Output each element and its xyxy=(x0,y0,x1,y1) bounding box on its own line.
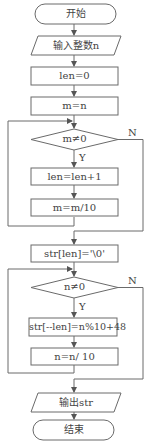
div-n-label: n=n/ 10 xyxy=(31,352,118,362)
init-m-label: m=n xyxy=(31,101,118,111)
cond2-no-label: N xyxy=(128,276,137,286)
terminate-str-label: str[len]='\0' xyxy=(31,249,118,259)
cond2-label: n≠0 xyxy=(31,282,118,292)
inc-len-label: len=len+1 xyxy=(31,172,118,182)
output-label: 输出str xyxy=(31,398,121,408)
cond2-yes-label: Y xyxy=(79,302,86,312)
store-digit-label: str[--len]=n%10+48 xyxy=(29,322,117,332)
start-label: 开始 xyxy=(35,9,116,19)
end-label: 结束 xyxy=(33,425,114,435)
cond1-yes-label: Y xyxy=(79,153,86,163)
flowchart-canvas xyxy=(0,0,149,444)
cond1-label: m≠0 xyxy=(31,134,118,144)
cond1-no-label: N xyxy=(128,128,137,138)
input-label: 输入整数n xyxy=(31,41,121,51)
init-len-label: len=0 xyxy=(31,71,118,81)
div-m-label: m=m/10 xyxy=(31,203,118,213)
